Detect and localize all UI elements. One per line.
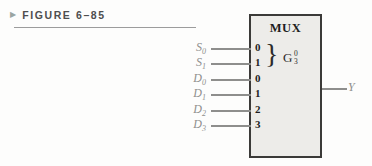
figure-6-85: ▶ FIGURE 6–85 MUX S0 0 S1 1 } G 0 3 D0 0…	[0, 0, 372, 166]
wire-d0	[211, 79, 251, 81]
g-letter: G	[283, 50, 292, 65]
input-label-s1: S1	[168, 55, 206, 69]
pin-data-3: 3	[255, 117, 267, 132]
select-group-label: G 0 3	[283, 50, 298, 65]
wire-d1	[211, 94, 251, 96]
mux-title: MUX	[251, 21, 320, 36]
wire-s0	[211, 48, 251, 50]
wire-d3	[211, 125, 251, 127]
figure-header: ▶ FIGURE 6–85	[10, 9, 106, 21]
g-range: 0 3	[294, 50, 298, 65]
figure-title: FIGURE 6–85	[22, 9, 106, 21]
wire-s1	[211, 63, 251, 65]
pin-data-1: 1	[255, 86, 267, 101]
select-brace: }	[265, 38, 278, 69]
input-label-d1: D1	[168, 86, 206, 100]
input-label-d2: D2	[168, 102, 206, 116]
input-label-d3: D3	[168, 117, 206, 131]
figure-rule	[14, 27, 196, 28]
input-label-d0: D0	[168, 71, 206, 85]
figure-arrow-icon: ▶	[10, 10, 16, 20]
output-label: Y	[348, 80, 364, 94]
input-label-s0: S0	[168, 40, 206, 54]
output-wire	[322, 88, 347, 90]
pin-data-0: 0	[255, 71, 267, 86]
wire-d2	[211, 110, 251, 112]
pin-data-2: 2	[255, 102, 267, 117]
